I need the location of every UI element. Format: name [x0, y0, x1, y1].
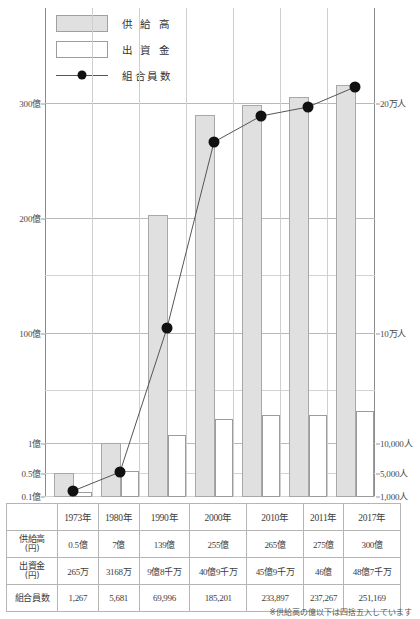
table-col-1990: 1990年	[139, 504, 190, 531]
ytick-left-05oku: 0.5億	[22, 467, 41, 480]
ytick-left-200oku: 200億	[19, 212, 41, 225]
members-point-2017	[350, 82, 361, 93]
table-cell: 1,267	[58, 585, 99, 612]
table-header-row: 1973年 1980年 1990年 2000年 2010年 2011年 2017…	[7, 504, 401, 531]
table-corner-cell	[7, 504, 58, 531]
ytick-left-300oku: 300億	[19, 97, 41, 110]
table-col-2010: 2010年	[247, 504, 304, 531]
table-col-1973: 1973年	[58, 504, 99, 531]
table-cell: 3168万	[98, 558, 139, 585]
table-cell: 265億	[247, 531, 304, 558]
members-line-path	[73, 87, 355, 491]
table-row: 供給高 (円) 0.5億 7億 139億 255億 265億 275億 300億	[7, 531, 401, 558]
members-line-series	[45, 8, 375, 497]
table-cell: 0.5億	[58, 531, 99, 558]
ytick-right-10man: 10万人	[380, 327, 406, 340]
table-cell: 275億	[303, 531, 343, 558]
table-row: 出資金 (円) 265万 3168万 9億8千万 40億9千万 45億9千万 4…	[7, 558, 401, 585]
table-rowhead-capital: 出資金 (円)	[7, 558, 58, 585]
ytick-right-20man: 20万人	[380, 97, 406, 110]
table-rowhead-supply-unit: (円)	[7, 544, 57, 554]
members-point-1980	[115, 467, 126, 478]
chart-plot-area: 300億 20万人 200億 100億 10万人 1億 10,000人 0.5億…	[45, 8, 375, 497]
table-col-2017: 2017年	[344, 504, 401, 531]
table-col-2011: 2011年	[303, 504, 343, 531]
chart-footnote: ※供給高の億以下は四捨五入しています	[269, 606, 412, 617]
table-cell: 5,681	[98, 585, 139, 612]
table-cell: 46億	[303, 558, 343, 585]
table-cell: 300億	[344, 531, 401, 558]
table-cell: 48億7千万	[344, 558, 401, 585]
table-cell: 255億	[190, 531, 247, 558]
members-point-2010	[256, 111, 267, 122]
members-point-1990	[162, 323, 173, 334]
table-cell: 139億	[139, 531, 190, 558]
table-cell: 265万	[58, 558, 99, 585]
table-rowhead-members: 組合員数	[7, 585, 58, 612]
members-point-2000	[209, 137, 220, 148]
table-rowhead-supply: 供給高 (円)	[7, 531, 58, 558]
table-col-1980: 1980年	[98, 504, 139, 531]
table-rowhead-capital-unit: (円)	[7, 571, 57, 581]
ytick-left-1oku: 1億	[28, 437, 41, 450]
table-col-2000: 2000年	[190, 504, 247, 531]
members-point-1973	[68, 486, 79, 497]
table-cell: 7億	[98, 531, 139, 558]
ytick-right-1000nin: 1,000人	[380, 490, 408, 503]
table-cell: 185,201	[190, 585, 247, 612]
ytick-left-01oku: 0.1億	[22, 490, 41, 503]
table-cell: 40億9千万	[190, 558, 247, 585]
data-table: 1973年 1980年 1990年 2000年 2010年 2011年 2017…	[6, 503, 401, 612]
table-cell: 9億8千万	[139, 558, 190, 585]
ytick-left-100oku: 100億	[19, 327, 41, 340]
table-cell: 69,996	[139, 585, 190, 612]
ytick-right-5000nin: 5,000人	[380, 467, 408, 480]
table-rowhead-members-label: 組合員数	[15, 593, 50, 603]
members-point-2011	[303, 102, 314, 113]
ytick-right-10000nin: 10,000人	[380, 437, 412, 450]
table-cell: 45億9千万	[247, 558, 304, 585]
